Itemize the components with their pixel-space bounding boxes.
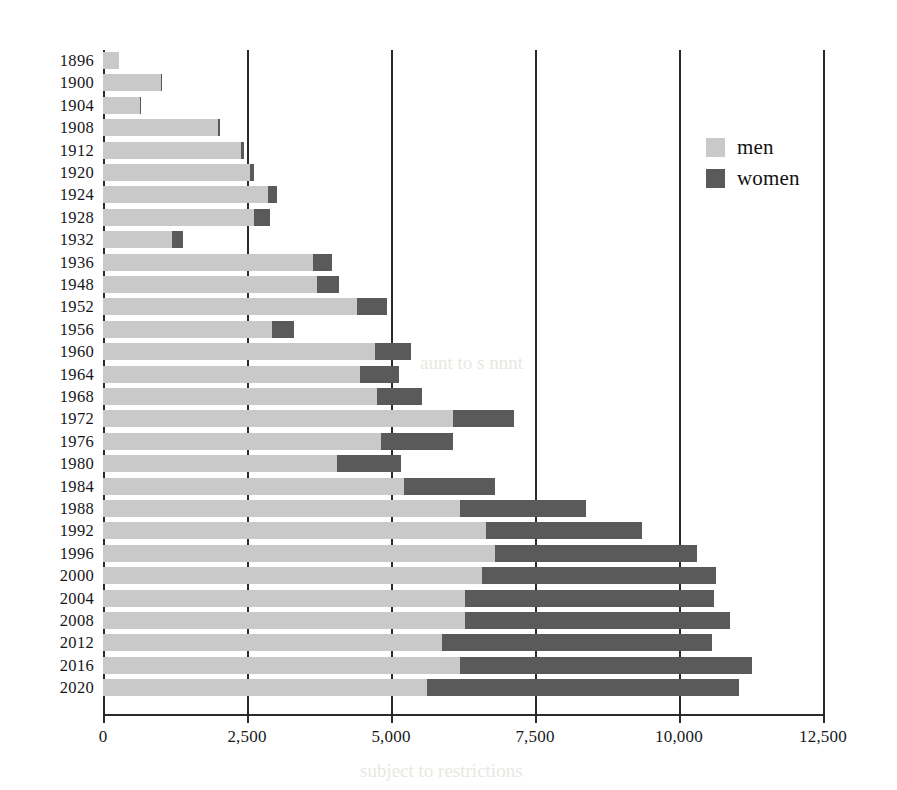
y-axis-label-1932: 1932 [42,230,94,250]
bar-segment-women-1920[interactable] [250,164,254,181]
bar-segment-men-2016[interactable] [103,657,460,674]
bar-row-2020[interactable] [103,679,823,696]
y-axis-label-1920: 1920 [42,163,94,183]
bar-segment-men-1960[interactable] [103,343,375,360]
bar-segment-men-1952[interactable] [103,298,357,315]
bar-segment-women-2016[interactable] [460,657,753,674]
bar-segment-women-1968[interactable] [377,388,422,405]
bar-segment-women-2020[interactable] [427,679,739,696]
bar-row-2008[interactable] [103,612,823,629]
bar-row-1988[interactable] [103,500,823,517]
bar-segment-women-1960[interactable] [375,343,410,360]
bar-segment-men-1956[interactable] [103,321,272,338]
x-tick-2500 [247,714,249,723]
bar-segment-men-1996[interactable] [103,545,495,562]
bar-segment-women-1928[interactable] [254,209,270,226]
bar-row-1936[interactable] [103,254,823,271]
bar-segment-men-1988[interactable] [103,500,460,517]
legend-label-men: men [737,135,774,160]
bar-segment-men-2012[interactable] [103,634,442,651]
bar-segment-men-1968[interactable] [103,388,377,405]
bar-segment-women-1952[interactable] [357,298,387,315]
x-tick-0 [103,714,105,723]
bar-segment-women-2012[interactable] [442,634,712,651]
bar-segment-women-1964[interactable] [360,366,399,383]
x-axis-line [103,714,824,716]
bar-segment-men-1936[interactable] [103,254,313,271]
bar-segment-women-1904[interactable] [140,97,141,114]
bar-segment-men-1928[interactable] [103,209,254,226]
bar-segment-men-1976[interactable] [103,433,381,450]
bar-segment-women-1956[interactable] [272,321,294,338]
bar-segment-women-1988[interactable] [460,500,586,517]
bar-segment-men-1900[interactable] [103,74,161,91]
bar-row-1928[interactable] [103,209,823,226]
x-tick-label-2500: 2,500 [227,727,266,747]
bar-row-2000[interactable] [103,567,823,584]
bar-row-1972[interactable] [103,410,823,427]
bar-segment-men-2020[interactable] [103,679,427,696]
bar-row-2012[interactable] [103,634,823,651]
bar-segment-men-1912[interactable] [103,142,241,159]
bar-row-2016[interactable] [103,657,823,674]
bar-segment-men-1992[interactable] [103,522,486,539]
bar-segment-women-1900[interactable] [161,74,162,91]
bar-row-1956[interactable] [103,321,823,338]
y-axis-label-1964: 1964 [42,365,94,385]
bar-segment-men-1920[interactable] [103,164,250,181]
bar-segment-men-2004[interactable] [103,590,465,607]
legend-item-women[interactable]: women [706,163,800,194]
bar-segment-men-1964[interactable] [103,366,360,383]
bar-segment-men-1984[interactable] [103,478,404,495]
x-tick-5000 [391,714,393,723]
bar-row-1984[interactable] [103,478,823,495]
bar-segment-men-1896[interactable] [103,52,119,69]
bar-segment-women-1972[interactable] [453,410,514,427]
bar-segment-women-1908[interactable] [218,119,220,136]
bar-segment-women-1924[interactable] [268,186,277,203]
bar-row-1896[interactable] [103,52,823,69]
bar-segment-women-1912[interactable] [241,142,244,159]
bar-segment-men-1972[interactable] [103,410,453,427]
y-axis-label-1968: 1968 [42,387,94,407]
bar-segment-men-2008[interactable] [103,612,465,629]
bar-segment-men-1904[interactable] [103,97,140,114]
bar-row-1904[interactable] [103,97,823,114]
bar-segment-women-1984[interactable] [404,478,494,495]
bar-segment-women-2004[interactable] [465,590,713,607]
bar-row-1900[interactable] [103,74,823,91]
bar-segment-women-1948[interactable] [317,276,339,293]
bar-row-1976[interactable] [103,433,823,450]
bar-segment-men-1980[interactable] [103,455,337,472]
bar-row-1968[interactable] [103,388,823,405]
y-axis-label-1956: 1956 [42,320,94,340]
bar-segment-men-1932[interactable] [103,231,172,248]
bar-row-1992[interactable] [103,522,823,539]
bar-segment-women-1976[interactable] [381,433,454,450]
bar-segment-women-2008[interactable] [465,612,730,629]
bar-segment-women-1980[interactable] [337,455,401,472]
legend-item-men[interactable]: men [706,132,800,163]
bar-segment-women-1932[interactable] [172,231,183,248]
y-axis-label-1996: 1996 [42,544,94,564]
bar-row-1980[interactable] [103,455,823,472]
bar-row-1948[interactable] [103,276,823,293]
bar-row-1996[interactable] [103,545,823,562]
bar-row-1964[interactable] [103,366,823,383]
bar-row-1952[interactable] [103,298,823,315]
bar-segment-women-2000[interactable] [482,567,716,584]
y-axis-label-1936: 1936 [42,253,94,273]
page-bleed-artifact-3: subject to restrictions [360,760,523,782]
legend-swatch-women-icon [706,169,725,188]
bar-row-1932[interactable] [103,231,823,248]
bar-segment-men-2000[interactable] [103,567,482,584]
bar-segment-men-1908[interactable] [103,119,218,136]
bar-segment-women-1992[interactable] [486,522,642,539]
y-axis-label-2020: 2020 [42,678,94,698]
bar-segment-women-1936[interactable] [313,254,332,271]
bar-segment-men-1948[interactable] [103,276,317,293]
bar-row-1960[interactable] [103,343,823,360]
bar-row-2004[interactable] [103,590,823,607]
bar-segment-women-1996[interactable] [495,545,697,562]
bar-segment-men-1924[interactable] [103,186,268,203]
